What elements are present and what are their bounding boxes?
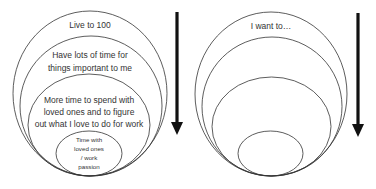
down-arrow-icon (171, 12, 183, 135)
second-label-line2: things important to me (48, 63, 132, 73)
second-label-line1: Have lots of time for (52, 50, 128, 60)
third-ellipse (212, 77, 331, 176)
right-diagram: I want to… (195, 12, 364, 176)
third-label-line2: loved ones and to figure (44, 107, 135, 117)
outer-ellipse (195, 12, 347, 176)
inner-label-line2: loved ones (74, 145, 104, 152)
third-label-line1: More time to spend with (44, 95, 135, 105)
third-label-line3: out what I love to do for work (35, 119, 144, 129)
inner-label-line4: passion (78, 163, 100, 170)
left-diagram: Live to 100 Have lots of time for things… (13, 11, 183, 176)
inner-label-line1: Time with (76, 136, 103, 143)
outer-label: I want to… (251, 21, 292, 31)
outer-label: Live to 100 (69, 20, 111, 30)
inner-ellipse (238, 131, 303, 176)
down-arrow-icon (352, 13, 364, 137)
nested-goals-diagram: Live to 100 Have lots of time for things… (0, 0, 376, 189)
inner-label-line3: / work (81, 154, 98, 161)
